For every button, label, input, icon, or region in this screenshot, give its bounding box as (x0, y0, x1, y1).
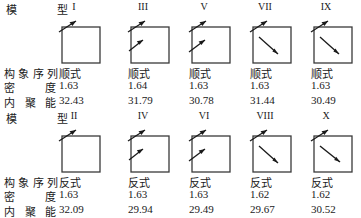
value-cohesive-2: 32.09 (59, 203, 84, 215)
value-cohesive-1: 32.43 (59, 94, 84, 106)
row-label-density: 密 度 (4, 79, 56, 95)
models-comparison-figure: 模 型 I III V VII IX (0, 0, 361, 218)
model-diagram-9 (308, 19, 361, 65)
value-density-7: 1.63 (250, 79, 269, 91)
value-density-9: 1.63 (311, 79, 330, 91)
block-even-diagram-row (0, 126, 361, 174)
model-roman-10: X (313, 109, 339, 123)
block-even-data-rows: 构 象 序 列 密 度 内 聚 能 反式 1.63 32.09 反式 1.63 … (0, 174, 361, 218)
model-diagram-4 (125, 128, 185, 174)
block-even-header-row: 模 型 II IV VI VIII X (0, 109, 361, 126)
model-roman-8: VIII (252, 109, 278, 123)
row-label-cohesive-2-c2: 聚 (25, 203, 36, 218)
value-cohesive-5: 30.78 (189, 94, 214, 106)
model-diagram-6 (186, 128, 246, 174)
model-diagram-10 (308, 128, 361, 174)
value-cohesive-9: 30.49 (311, 94, 336, 106)
row-label-cohesive-c1: 内 (4, 94, 15, 110)
model-roman-1: I (61, 0, 87, 14)
model-roman-5: V (191, 0, 217, 14)
header-label-model: 模 型 (6, 1, 68, 17)
value-density-3: 1.64 (128, 79, 147, 91)
value-density-1: 1.63 (59, 79, 78, 91)
block-odd-data-rows: 构 象 序 列 密 度 内 聚 能 顺式 1.63 32.43 顺式 1.64 … (0, 65, 361, 109)
model-roman-2: II (61, 109, 87, 123)
header-label-char-1: 模 (6, 1, 17, 17)
value-density-2: 1.63 (59, 188, 78, 200)
value-cohesive-7: 31.44 (250, 94, 275, 106)
row-label-cohesive-2-c3: 能 (45, 203, 56, 218)
value-cohesive-4: 29.94 (128, 203, 153, 215)
row-label-density-c1: 密 (4, 79, 15, 95)
row-label-density-2: 密 度 (4, 188, 56, 204)
header-label-2-char-1: 模 (6, 110, 17, 126)
value-cohesive-10: 30.52 (311, 203, 336, 215)
model-block-odd: 模 型 I III V VII IX (0, 0, 361, 109)
value-density-5: 1.63 (189, 79, 208, 91)
row-label-cohesive-energy-2: 内 聚 能 (4, 203, 56, 218)
row-label-density-2-c1: 密 (4, 188, 15, 204)
model-roman-7: VII (252, 0, 278, 14)
value-cohesive-8: 29.67 (250, 203, 275, 215)
model-roman-4: IV (130, 109, 156, 123)
block-odd-diagram-row (0, 17, 361, 65)
model-diagram-2 (56, 128, 116, 174)
row-label-cohesive-2-c1: 内 (4, 203, 15, 218)
row-label-cohesive-c3: 能 (45, 94, 56, 110)
row-label-cohesive-c2: 聚 (25, 94, 36, 110)
value-cohesive-3: 31.79 (128, 94, 153, 106)
value-density-10: 1.62 (311, 188, 330, 200)
block-odd-header-row: 模 型 I III V VII IX (0, 0, 361, 17)
model-roman-9: IX (313, 0, 339, 14)
model-diagram-5 (186, 19, 246, 65)
value-density-4: 1.63 (128, 188, 147, 200)
value-cohesive-6: 29.49 (189, 203, 214, 215)
model-roman-6: VI (191, 109, 217, 123)
model-diagram-8 (247, 128, 307, 174)
model-diagram-1 (56, 19, 116, 65)
model-roman-3: III (130, 0, 156, 14)
model-diagram-7 (247, 19, 307, 65)
row-label-density-c2: 度 (45, 79, 56, 95)
header-label-model-2: 模 型 (6, 110, 68, 126)
row-label-density-2-c2: 度 (45, 188, 56, 204)
row-label-cohesive-energy: 内 聚 能 (4, 94, 56, 110)
value-density-6: 1.63 (189, 188, 208, 200)
value-density-8: 1.62 (250, 188, 269, 200)
model-diagram-3 (125, 19, 185, 65)
model-block-even: 模 型 II IV VI VIII X (0, 109, 361, 218)
